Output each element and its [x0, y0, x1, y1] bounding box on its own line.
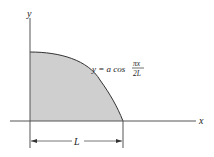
arrowhead-left-icon	[31, 139, 37, 143]
equation-denominator: 2L	[133, 69, 141, 78]
y-axis-label: y	[26, 8, 32, 19]
equation-numerator: πx	[133, 59, 141, 68]
equation-lhs: y = a cos	[91, 64, 126, 74]
diagram-canvas: y x L y = a cos πx 2L	[0, 0, 214, 157]
x-axis-label: x	[198, 115, 204, 126]
dimension-label: L	[73, 136, 80, 147]
arrowhead-right-icon	[116, 139, 122, 143]
shaded-area	[30, 52, 123, 121]
